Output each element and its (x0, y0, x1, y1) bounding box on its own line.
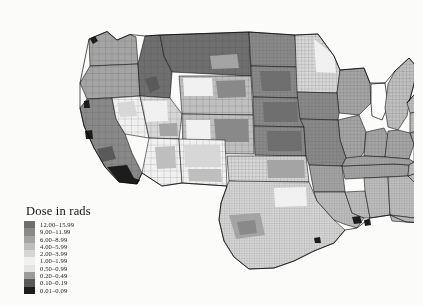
state-new-mexico[interactable] (179, 139, 227, 186)
legend-swatch-4 (24, 250, 35, 257)
legend-swatch-1 (24, 228, 35, 235)
legend-label-5: 1.00–1.99 (40, 257, 74, 264)
state-arizona[interactable] (142, 138, 182, 186)
legend-swatch-column (24, 221, 35, 294)
legend-label-column: 12.00–15.99 9.00–11.99 6.00–8.99 4.00–5.… (40, 221, 74, 294)
legend-swatch-8 (24, 279, 35, 286)
state-kansas[interactable] (254, 126, 306, 156)
state-indiana[interactable] (364, 128, 388, 157)
state-michigan[interactable] (385, 58, 414, 130)
legend-label-0: 12.00–15.99 (40, 221, 74, 228)
legend-label-8: 0.10–0.19 (40, 279, 74, 286)
legend-swatch-6 (24, 265, 35, 272)
legend-label-6: 0.50–0.99 (40, 265, 74, 272)
legend-swatch-7 (24, 272, 35, 279)
state-ohio[interactable] (385, 130, 414, 159)
legend-swatch-0 (24, 221, 35, 228)
legend-body: 12.00–15.99 9.00–11.99 6.00–8.99 4.00–5.… (22, 221, 130, 294)
state-wisconsin[interactable] (337, 68, 371, 115)
legend-label-4: 2.00–3.99 (40, 250, 74, 257)
state-arkansas[interactable] (309, 165, 345, 192)
legend-swatch-3 (24, 243, 35, 250)
state-north-dakota[interactable] (249, 32, 297, 67)
legend-label-9: 0.01–0.09 (40, 287, 74, 294)
legend-label-2: 6.00–8.99 (40, 236, 74, 243)
legend-swatch-2 (24, 236, 35, 243)
figure-root: Dose in rads 12.00–15.99 9.00–11.99 6.00… (0, 0, 423, 306)
legend-swatch-5 (24, 257, 35, 264)
legend-label-7: 0.20–0.49 (40, 272, 74, 279)
state-oregon[interactable] (80, 64, 140, 99)
state-oklahoma[interactable] (227, 156, 309, 182)
legend-label-1: 9.00–11.99 (40, 228, 74, 235)
state-nebraska[interactable] (253, 97, 304, 127)
state-south-dakota[interactable] (251, 66, 299, 98)
legend-swatch-9 (24, 287, 35, 294)
state-georgia[interactable] (388, 176, 414, 218)
region-midwest (295, 34, 414, 166)
state-wyoming[interactable] (179, 76, 253, 115)
state-iowa[interactable] (297, 92, 339, 120)
state-minnesota[interactable] (295, 34, 340, 93)
map-legend: Dose in rads 12.00–15.99 9.00–11.99 6.00… (22, 204, 130, 294)
state-montana[interactable] (160, 32, 251, 76)
legend-title: Dose in rads (26, 204, 130, 219)
legend-label-3: 4.00–5.99 (40, 243, 74, 250)
